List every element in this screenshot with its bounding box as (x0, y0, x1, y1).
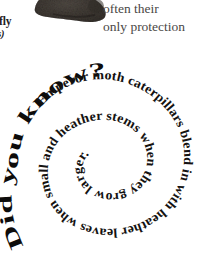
body-text-line-1: often their (103, 0, 207, 18)
body-text-fragment: often their only protection (103, 0, 207, 36)
caption-latin-name: ocus) (0, 28, 52, 39)
figure-caption: tterfly ocus) (0, 15, 52, 39)
page-canvas: tterfly ocus) often their only protectio… (0, 0, 207, 256)
spiral-fact-text: Emperor moth caterpillars blend in with … (33, 67, 196, 241)
did-you-know-spiral: Did you know? Emperor moth caterpillars … (0, 66, 207, 256)
caption-common-name: tterfly (0, 15, 52, 27)
body-text-line-2: only protection (103, 18, 207, 36)
